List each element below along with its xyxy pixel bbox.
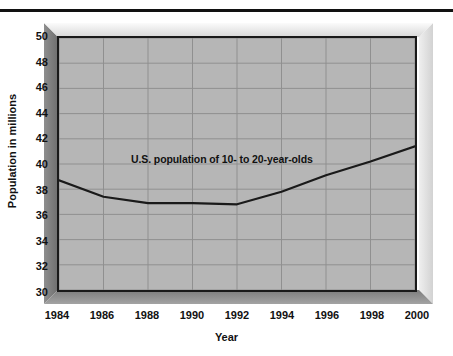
x-axis-tick-labels: 198419861988199019921994199619982000 [0,309,453,325]
x-tick-label: 1994 [260,309,304,321]
y-tick-label: 40 [16,159,48,170]
chart-figure: 3032343638404244464850 19841986198819901… [0,0,453,356]
y-tick-label: 42 [16,133,48,144]
frame-bevel-top [44,23,433,37]
x-tick-label: 1984 [35,309,79,321]
x-tick-label: 1998 [350,309,394,321]
y-axis-title: Population in millions [6,81,18,221]
x-tick-label: 1990 [170,309,214,321]
y-tick-label: 32 [16,261,48,272]
series-annotation-label: U.S. population of 10- to 20-year-olds [131,153,313,165]
x-axis-title: Year [0,331,453,343]
x-tick-label: 1992 [215,309,259,321]
y-tick-label: 38 [16,185,48,196]
x-tick-label: 1988 [125,309,169,321]
y-tick-label: 34 [16,236,48,247]
x-tick-label: 1986 [80,309,124,321]
y-tick-label: 30 [16,287,48,298]
y-tick-label: 36 [16,210,48,221]
x-tick-label: 2000 [395,309,439,321]
frame-bevel-right [419,23,433,304]
y-tick-label: 44 [16,108,48,119]
y-tick-label: 46 [16,82,48,93]
x-tick-label: 1996 [305,309,349,321]
y-tick-label: 50 [16,31,48,42]
frame-bevel-bottom [44,290,433,304]
y-tick-label: 48 [16,57,48,68]
